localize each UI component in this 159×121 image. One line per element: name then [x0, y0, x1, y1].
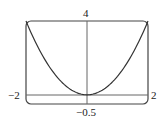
graph-plot	[0, 0, 159, 121]
x-min-label: −2	[8, 90, 20, 101]
y-min-label: −0.5	[76, 107, 96, 118]
y-max-label: 4	[83, 8, 89, 19]
x-max-label: 2	[151, 90, 157, 101]
